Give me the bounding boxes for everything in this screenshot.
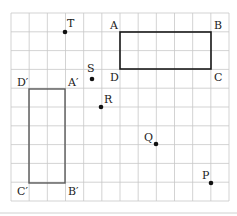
vertex-label-c-prime: C′ xyxy=(17,185,28,198)
point-label-t: T xyxy=(67,17,75,30)
point-label-s: S xyxy=(87,62,95,75)
vertex-label-d: D xyxy=(110,71,119,84)
point-label-r: R xyxy=(104,93,113,106)
vertex-label-d-prime: D′ xyxy=(17,76,29,89)
point-s xyxy=(90,77,95,82)
vertex-label-a: A xyxy=(109,19,119,32)
point-r xyxy=(99,105,104,110)
vertex-label-b-prime: B′ xyxy=(68,185,79,198)
vertex-label-c: C xyxy=(214,71,222,84)
vertex-label-b: B xyxy=(214,19,222,32)
point-q xyxy=(154,142,159,147)
point-t xyxy=(63,30,68,35)
point-label-q: Q xyxy=(144,131,153,144)
point-label-p: P xyxy=(202,169,210,182)
vertex-label-a-prime: A′ xyxy=(67,76,79,89)
grid-diagram: A B C D A′ B′ C′ D′ T S R Q P xyxy=(0,0,237,216)
